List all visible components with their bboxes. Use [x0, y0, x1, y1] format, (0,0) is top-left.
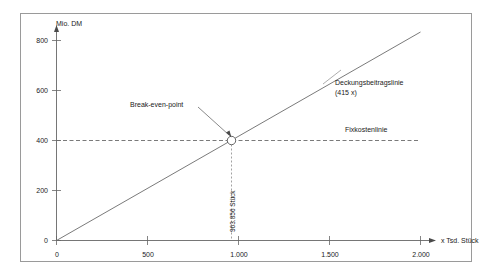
- break-even-point-label: Break-even-point: [130, 101, 183, 108]
- chart-plot-area: [0, 0, 492, 280]
- contribution-margin-line-formula: (415 x): [335, 89, 357, 96]
- break-even-quantity-label: 963.856 Stück: [229, 190, 236, 232]
- y-axis-title: Mio. DM: [56, 20, 82, 27]
- x-tick-label-0: 0: [37, 251, 77, 258]
- y-tick-label-200: 200: [22, 187, 48, 194]
- x-tick-label-1000: 1.000: [219, 251, 259, 258]
- break-even-leader-arrow-icon: [226, 131, 232, 138]
- x-tick-label-1500: 1.500: [310, 251, 350, 258]
- y-tick-label-600: 600: [22, 87, 48, 94]
- contribution-margin-line-label: Deckungsbeitragslinie: [335, 79, 403, 86]
- y-tick-label-800: 800: [22, 37, 48, 44]
- x-tick-label-500: 500: [128, 251, 168, 258]
- y-tick-label-400: 400: [22, 137, 48, 144]
- contribution-margin-line: [57, 32, 421, 241]
- x-axis-title: x Tsd. Stück: [441, 237, 479, 244]
- x-tick-label-2000: 2.000: [401, 251, 441, 258]
- fixed-cost-line-label: Fixkostenlinie: [345, 126, 387, 133]
- break-even-leader-line: [198, 107, 229, 135]
- y-tick-label-0: 0: [22, 237, 48, 244]
- x-axis-arrow-icon: [429, 238, 436, 243]
- break-even-marker: [227, 136, 235, 144]
